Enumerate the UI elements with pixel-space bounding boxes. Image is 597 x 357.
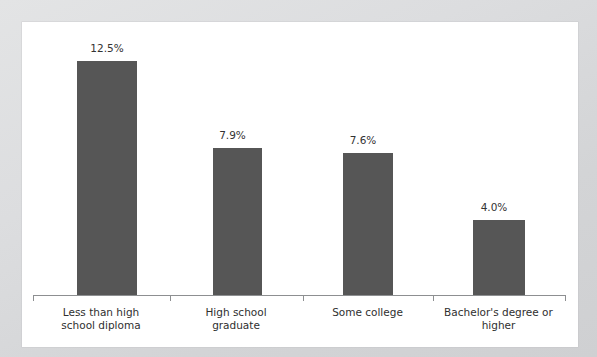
bar-value-high-school-graduate: 7.9% — [208, 129, 257, 141]
bar-high-school-graduate — [213, 148, 262, 295]
x-axis-tick — [33, 295, 34, 301]
x-axis-tick — [565, 295, 566, 301]
x-axis-tick — [433, 295, 434, 301]
bar-value-bachelors-or-higher: 4.0% — [468, 201, 520, 213]
bar-chart: 12.5% 7.9% 7.6% 4.0% Less than high scho… — [22, 22, 578, 347]
x-axis-label-bachelors-or-higher: Bachelor's degree or higher — [432, 306, 565, 332]
x-axis-line — [33, 295, 565, 296]
x-axis-tick — [170, 295, 171, 301]
screenshot-page: 12.5% 7.9% 7.6% 4.0% Less than high scho… — [0, 0, 597, 357]
x-axis-label-some-college: Some college — [302, 306, 433, 319]
x-axis-tick — [303, 295, 304, 301]
bar-some-college — [343, 153, 393, 295]
bar-value-less-than-high-school: 12.5% — [77, 42, 137, 54]
bar-bachelors-or-higher — [473, 220, 525, 295]
bar-value-some-college: 7.6% — [338, 134, 388, 146]
x-axis-label-less-than-high-school: Less than high school diploma — [32, 306, 170, 332]
clipped-header-text — [8, 0, 248, 7]
chart-card: 12.5% 7.9% 7.6% 4.0% Less than high scho… — [22, 22, 578, 347]
x-axis-label-high-school-graduate: High school graduate — [169, 306, 303, 332]
bar-less-than-high-school — [77, 61, 137, 295]
